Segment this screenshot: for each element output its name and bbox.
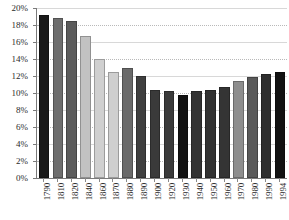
x-axis-tick-label: 1994: [279, 183, 288, 200]
bar: [247, 77, 258, 178]
x-label-slot: 1820: [64, 182, 78, 220]
bar: [178, 95, 189, 178]
x-label-slot: 1940: [189, 182, 203, 220]
x-label-slot: 1790: [36, 182, 50, 220]
bar: [66, 21, 77, 178]
x-label-slot: 1920: [161, 182, 175, 220]
bar-slot: [93, 8, 107, 178]
y-axis-labels: 20%18%16%14%12%10%8%6%4%2%0%: [0, 0, 30, 181]
bar-slot: [245, 8, 259, 178]
y-axis-tick: [33, 93, 37, 94]
bar-slot: [218, 8, 232, 178]
bar: [233, 81, 244, 178]
y-axis-tick-label: 8%: [16, 106, 28, 115]
x-label-slot: 1880: [119, 182, 133, 220]
bar-slot: [176, 8, 190, 178]
bar-slot: [120, 8, 134, 178]
bar-slot: [190, 8, 204, 178]
bar: [191, 91, 202, 178]
x-label-slot: 1930: [175, 182, 189, 220]
y-axis-tick: [33, 42, 37, 43]
x-label-slot: 1994: [272, 182, 286, 220]
y-axis-tick-label: 12%: [12, 72, 29, 81]
plot-area: [36, 8, 287, 179]
x-label-slot: 1840: [78, 182, 92, 220]
bar: [122, 68, 133, 179]
x-label-slot: 1900: [147, 182, 161, 220]
bar-slot: [134, 8, 148, 178]
bar: [164, 91, 175, 178]
bar: [205, 90, 216, 178]
bar-slot: [204, 8, 218, 178]
x-label-slot: 1890: [133, 182, 147, 220]
y-axis-tick: [33, 8, 37, 9]
x-label-slot: 1970: [230, 182, 244, 220]
y-axis-tick-label: 18%: [12, 21, 29, 30]
bar: [275, 72, 286, 178]
y-axis-tick-label: 2%: [16, 157, 28, 166]
bar: [136, 76, 147, 178]
bar-slot: [79, 8, 93, 178]
y-axis-tick: [33, 76, 37, 77]
bar-slot: [162, 8, 176, 178]
x-label-slot: 1960: [217, 182, 231, 220]
y-axis-tick: [33, 59, 37, 60]
bar-chart: 20%18%16%14%12%10%8%6%4%2%0% 17901810182…: [0, 0, 289, 220]
x-label-slot: 1990: [258, 182, 272, 220]
y-axis-tick: [33, 161, 37, 162]
x-label-slot: 1810: [50, 182, 64, 220]
y-axis-tick-label: 14%: [12, 55, 29, 64]
y-axis-tick-label: 16%: [12, 38, 29, 47]
bar: [39, 15, 50, 178]
bar: [53, 18, 64, 178]
bar-slot: [37, 8, 51, 178]
x-axis-labels: 1790181018201840186018701880189019001920…: [36, 182, 286, 220]
bar: [80, 36, 91, 178]
x-label-slot: 1870: [105, 182, 119, 220]
x-label-slot: 1980: [244, 182, 258, 220]
bar: [261, 74, 272, 178]
bar: [219, 87, 230, 178]
y-axis-tick-label: 20%: [12, 4, 29, 13]
bar-slot: [65, 8, 79, 178]
bar-slot: [106, 8, 120, 178]
bar-slot: [273, 8, 287, 178]
y-axis-tick: [33, 25, 37, 26]
bar-slot: [259, 8, 273, 178]
x-label-slot: 1860: [92, 182, 106, 220]
bar: [150, 90, 161, 178]
y-axis-tick: [33, 144, 37, 145]
bar: [94, 59, 105, 178]
bar-slot: [231, 8, 245, 178]
y-axis-tick-label: 0%: [16, 174, 28, 183]
x-label-slot: 1950: [203, 182, 217, 220]
y-axis-tick: [33, 127, 37, 128]
y-axis-tick: [33, 110, 37, 111]
y-axis-tick-label: 6%: [16, 123, 28, 132]
bar: [108, 72, 119, 178]
bar-series: [37, 8, 287, 178]
bar-slot: [51, 8, 65, 178]
bar-slot: [148, 8, 162, 178]
y-axis-tick-label: 10%: [12, 89, 29, 98]
y-axis-tick-label: 4%: [16, 140, 28, 149]
